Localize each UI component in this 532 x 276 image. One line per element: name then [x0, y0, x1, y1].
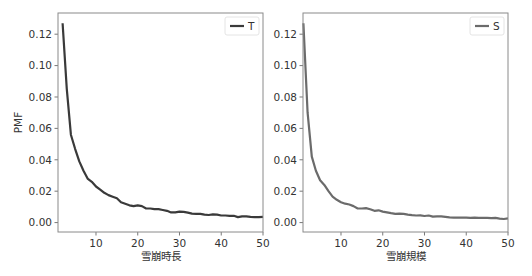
legend-label: T: [247, 20, 255, 32]
x-tick-label: 40: [215, 237, 228, 249]
chart-panel-avalanche-duration: 0.000.020.040.060.080.100.12 1020304050 …: [12, 13, 270, 262]
y-tick-label: 0.10: [274, 59, 297, 71]
figure: 0.000.020.040.060.080.100.12 1020304050 …: [0, 0, 532, 276]
y-tick-label: 0.08: [274, 91, 297, 103]
legend-label: S: [493, 20, 500, 32]
x-axis-label: 雪崩規模: [386, 250, 427, 262]
legend: S: [470, 17, 504, 35]
x-tick-label: 20: [376, 237, 389, 249]
x-tick-label: 40: [460, 237, 473, 249]
x-tick-label: 20: [131, 237, 144, 249]
x-axis-ticks: 1020304050: [89, 232, 269, 249]
x-tick-label: 50: [256, 237, 269, 249]
y-tick-label: 0.02: [29, 185, 52, 197]
y-tick-label: 0.04: [274, 154, 298, 166]
y-tick-label: 0.08: [29, 91, 52, 103]
y-tick-label: 0.10: [29, 59, 52, 71]
x-axis-ticks: 1020304050: [334, 232, 514, 249]
y-axis-ticks: 0.000.020.040.060.080.100.12: [274, 28, 303, 228]
x-tick-label: 10: [89, 237, 102, 249]
y-tick-label: 0.00: [29, 216, 52, 228]
plot-frame: [58, 13, 263, 232]
y-tick-label: 0.02: [274, 185, 297, 197]
x-axis-label: 雪崩時長: [141, 250, 182, 262]
y-tick-label: 0.04: [29, 154, 53, 166]
x-tick-label: 30: [418, 237, 431, 249]
series-line-S: [303, 23, 508, 219]
x-tick-label: 30: [173, 237, 186, 249]
y-tick-label: 0.06: [29, 122, 53, 134]
series-line-T: [63, 23, 263, 217]
x-tick-label: 50: [501, 237, 514, 249]
plot-frame: [303, 13, 508, 232]
y-axis-label: PMF: [12, 112, 24, 133]
y-tick-label: 0.12: [29, 28, 52, 40]
chart-panel-avalanche-size: 0.000.020.040.060.080.100.12 1020304050 …: [274, 13, 515, 262]
y-tick-label: 0.00: [274, 216, 297, 228]
y-axis-ticks: 0.000.020.040.060.080.100.12: [29, 28, 58, 228]
x-tick-label: 10: [334, 237, 347, 249]
legend: T: [225, 17, 259, 35]
y-tick-label: 0.12: [274, 28, 297, 40]
y-tick-label: 0.06: [274, 122, 298, 134]
